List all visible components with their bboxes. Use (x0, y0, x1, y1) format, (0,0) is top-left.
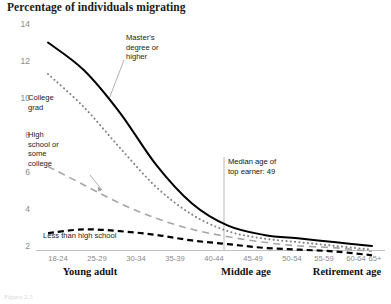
annotation-college-grad: College grad (28, 93, 54, 112)
x-axis-tick-55-59: 55-59 (306, 254, 342, 263)
axis-group-retirement-age: Retirement age (304, 266, 390, 277)
high-school-leader-line (90, 175, 102, 190)
x-axis-tick-45-49: 45-49 (235, 254, 271, 263)
axis-group-middle-age: Middle age (200, 266, 292, 277)
figure-caption: Figure 2.5 (4, 293, 33, 301)
x-axis-tick-25-29: 25-29 (79, 254, 115, 263)
x-axis-tick-30-34: 30-34 (118, 254, 154, 263)
series-line-0 (48, 43, 372, 247)
x-axis-tick-65plus: 65+ (362, 254, 388, 263)
chart-figure: Percentage of individuals migrating 14 1… (0, 0, 391, 304)
x-axis-tick-50-54: 50-54 (274, 254, 310, 263)
masters-leader-line (109, 60, 124, 99)
annotation-high-school: High school or some college (28, 130, 59, 168)
annotation-masters: Master's degree or higher (126, 33, 159, 62)
series-line-1 (48, 74, 372, 250)
axis-group-young-adult: Young adult (38, 266, 142, 277)
annotation-less-than-high-school: Less than high school (43, 231, 116, 241)
annotation-median-age: Median age of top earner: 49 (228, 157, 276, 176)
x-axis-tick-18-24: 18-24 (40, 254, 76, 263)
x-axis-tick-35-39: 35-39 (157, 254, 193, 263)
x-axis-tick-40-44: 40-44 (196, 254, 232, 263)
